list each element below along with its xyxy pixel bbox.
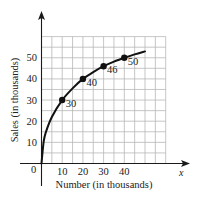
sales-chart: 102030401020304050 30404650 0 x Number (… — [0, 0, 197, 201]
y-tick-label: 50 — [27, 52, 38, 63]
x-tick-label: 40 — [119, 166, 130, 177]
y-tick-label: 20 — [27, 116, 38, 127]
y-tick-label: 10 — [27, 137, 38, 148]
data-point — [80, 76, 86, 82]
data-points: 30404650 — [59, 55, 138, 110]
axes — [20, 11, 190, 186]
x-axis-title: Number (in thousands) — [56, 179, 153, 191]
x-tick-label: 10 — [57, 166, 68, 177]
origin-label: 0 — [31, 164, 36, 175]
data-point-label: 30 — [66, 98, 77, 109]
data-point-label: 46 — [107, 64, 118, 75]
data-point — [121, 55, 127, 61]
x-tick-label: 30 — [98, 166, 109, 177]
y-tick-label: 30 — [27, 95, 38, 106]
data-point-label: 50 — [128, 56, 139, 67]
x-variable-label: x — [178, 167, 184, 178]
y-axis-title: Sales (in thousands) — [9, 57, 21, 142]
x-tick-label: 20 — [78, 166, 89, 177]
y-tick-label: 40 — [27, 73, 38, 84]
data-point — [100, 63, 106, 69]
data-point-label: 40 — [86, 77, 97, 88]
data-point — [59, 97, 65, 103]
